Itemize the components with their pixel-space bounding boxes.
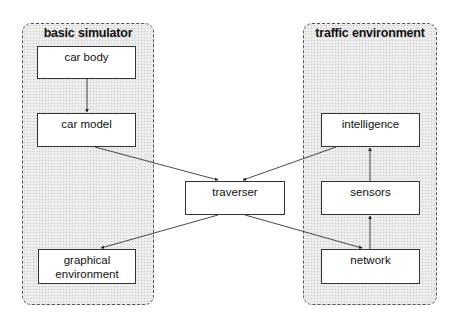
- graphical-environment-label-line1: graphical: [39, 253, 135, 267]
- edge-traverser-network: [245, 215, 362, 248]
- traverser-node: traverser: [185, 181, 285, 215]
- network-label: network: [350, 254, 390, 266]
- car-body-label: car body: [64, 51, 108, 63]
- sensors-node: sensors: [321, 181, 420, 215]
- traverser-label: traverser: [212, 186, 257, 198]
- edge-traverser-graphical: [101, 215, 218, 248]
- intelligence-label: intelligence: [342, 118, 400, 130]
- car-model-label: car model: [61, 118, 112, 130]
- sensors-label: sensors: [350, 186, 390, 198]
- car-model-node: car model: [37, 113, 136, 147]
- intelligence-node: intelligence: [321, 113, 420, 147]
- edge-intelligence-traverser: [243, 147, 336, 180]
- edge-carmodel-traverser: [95, 147, 218, 180]
- graphical-environment-node: graphical environment: [38, 249, 136, 284]
- car-body-node: car body: [37, 46, 136, 79]
- network-node: network: [321, 249, 420, 284]
- graphical-environment-label-line2: environment: [39, 267, 135, 281]
